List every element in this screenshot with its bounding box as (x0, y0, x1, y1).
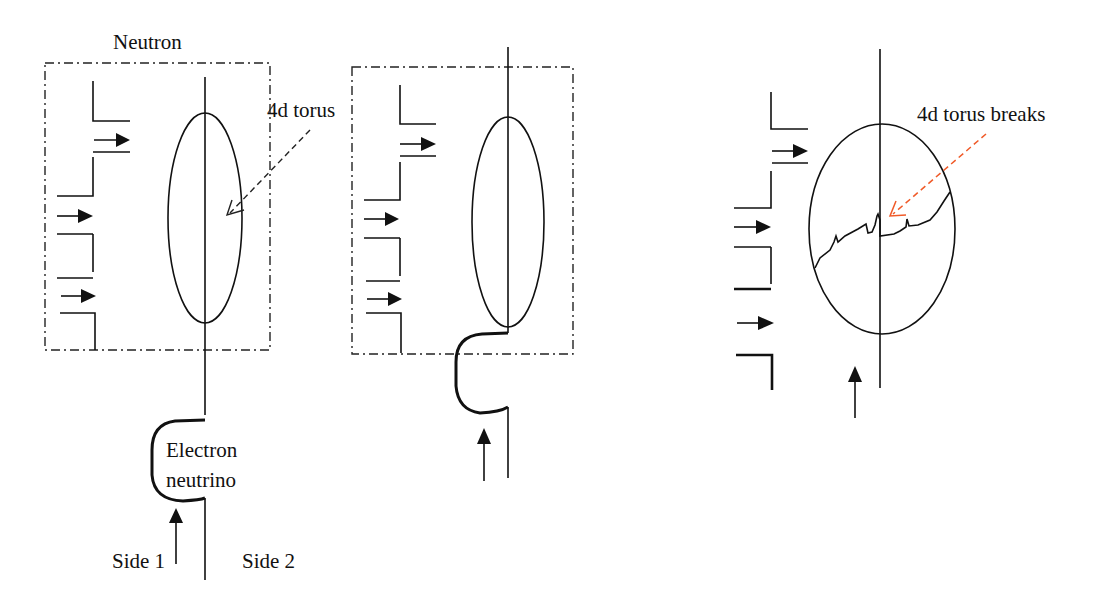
panel-2 (352, 47, 573, 481)
side-2-label: Side 2 (242, 549, 295, 573)
flow-arrow-icon (385, 212, 399, 226)
torus-ellipse (809, 124, 955, 334)
diagram-canvas: Neutron 4d torus Electro (0, 0, 1115, 604)
flow-arrow-icon (758, 316, 774, 330)
neutrino-bump (456, 333, 508, 413)
flow-arrow-icon (793, 144, 808, 158)
side-1-label: Side 1 (112, 549, 165, 573)
gate-structure-1 (57, 81, 130, 350)
gate-structure-2 (364, 85, 436, 353)
panel-3: 4d torus breaks (734, 49, 1045, 418)
flow-arrow-icon (81, 289, 96, 303)
panel-1: Neutron 4d torus Electro (45, 30, 335, 580)
flow-arrow-icon (116, 133, 130, 147)
flow-arrow-icon (756, 220, 771, 234)
torus-fracture-line (815, 192, 950, 268)
gate-structure-3 (734, 92, 808, 390)
neutrino-label-line1: Electron (166, 438, 238, 462)
torus-label: 4d torus (267, 98, 335, 122)
up-arrow-icon (169, 508, 183, 523)
neutron-label: Neutron (113, 30, 182, 54)
pointer-line-orange (893, 134, 986, 214)
torus-breaks-label: 4d torus breaks (917, 102, 1045, 126)
flow-arrow-icon (78, 209, 93, 223)
pointer-arrowhead-icon (890, 201, 906, 216)
neutron-box (45, 63, 270, 350)
flow-arrow-icon (421, 137, 436, 151)
flow-arrow-icon (388, 292, 402, 306)
neutrino-label-line2: neutrino (166, 468, 236, 492)
up-arrow-icon (477, 428, 491, 444)
up-arrow-icon (848, 366, 862, 382)
neutron-box-2 (352, 67, 573, 354)
